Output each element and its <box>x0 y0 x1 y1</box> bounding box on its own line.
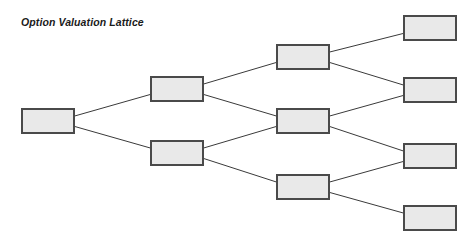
lattice-edge <box>203 158 277 182</box>
lattice-edge <box>203 126 277 148</box>
lattice-node-box[interactable] <box>404 78 456 102</box>
lattice-edge <box>74 126 151 148</box>
lattice-node[interactable] <box>404 78 456 102</box>
lattice-node-box[interactable] <box>277 175 329 199</box>
lattice-node-box[interactable] <box>277 109 329 133</box>
lattice-node[interactable] <box>404 144 456 168</box>
lattice-node[interactable] <box>151 141 203 165</box>
lattice-node[interactable] <box>277 109 329 133</box>
lattice-edge <box>329 62 404 85</box>
lattice-node-box[interactable] <box>404 206 456 230</box>
option-valuation-lattice-figure: Option Valuation Lattice <box>0 0 476 241</box>
lattice-edge <box>203 94 277 116</box>
lattice-diagram <box>0 0 476 241</box>
lattice-edge <box>203 62 277 84</box>
lattice-node-box[interactable] <box>404 144 456 168</box>
lattice-node-box[interactable] <box>151 77 203 101</box>
lattice-node-box[interactable] <box>151 141 203 165</box>
node-layer <box>22 16 456 230</box>
lattice-node-box[interactable] <box>277 45 329 69</box>
lattice-node[interactable] <box>404 16 456 40</box>
lattice-edge <box>329 192 404 213</box>
lattice-node[interactable] <box>277 45 329 69</box>
lattice-edge <box>329 126 404 151</box>
lattice-edge <box>74 94 151 116</box>
edge-layer <box>74 33 404 213</box>
lattice-edge <box>329 95 404 116</box>
lattice-node[interactable] <box>22 109 74 133</box>
lattice-node[interactable] <box>151 77 203 101</box>
lattice-node[interactable] <box>277 175 329 199</box>
lattice-edge <box>329 33 404 52</box>
lattice-edge <box>329 161 404 182</box>
lattice-node-box[interactable] <box>404 16 456 40</box>
lattice-node[interactable] <box>404 206 456 230</box>
lattice-node-box[interactable] <box>22 109 74 133</box>
